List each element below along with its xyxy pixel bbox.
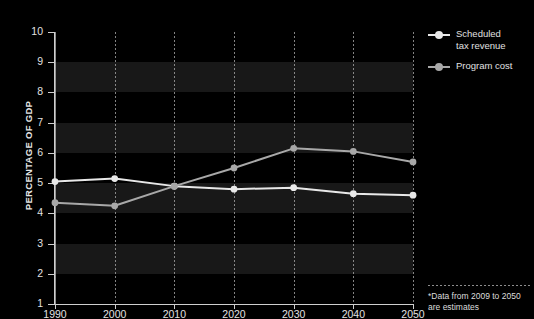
- y-tick-label: 10: [31, 25, 48, 38]
- y-tick: 8: [48, 92, 54, 93]
- legend-item-scheduled-tax-revenue[interactable]: Scheduled tax revenue: [428, 28, 532, 51]
- y-tick: 1: [48, 304, 54, 305]
- chart-footnote: *Data from 2009 to 2050 are estimates: [428, 285, 534, 312]
- footnote-text: *Data from 2009 to 2050 are estimates: [428, 291, 534, 312]
- y-tick: 10: [48, 32, 54, 33]
- vertical-gridline: [55, 32, 56, 304]
- chart-container: PERCENTAGE OF GDP 12345678910 1990200020…: [0, 0, 534, 319]
- plot-area: [55, 32, 413, 304]
- y-tick: 3: [48, 244, 54, 245]
- vertical-gridline: [353, 32, 354, 304]
- x-tick-label: 2020: [222, 308, 245, 319]
- y-tick-label: 2: [37, 267, 48, 280]
- y-tick-label: 6: [37, 146, 48, 159]
- x-tick-label: 1990: [43, 308, 66, 319]
- y-tick: 6: [48, 153, 54, 154]
- y-tick-label: 7: [37, 116, 48, 129]
- x-tick-label: 2000: [103, 308, 126, 319]
- y-tick-label: 9: [37, 55, 48, 68]
- y-tick-label: 5: [37, 176, 48, 189]
- footnote-divider: [428, 285, 532, 286]
- vertical-gridline: [174, 32, 175, 304]
- x-tick-label: 2030: [282, 308, 305, 319]
- legend-marker-icon: [428, 61, 450, 73]
- chart-legend: Scheduled tax revenue Program cost: [428, 28, 532, 82]
- y-tick-label: 8: [37, 85, 48, 98]
- y-tick: 7: [48, 123, 54, 124]
- x-tick-label: 2040: [342, 308, 365, 319]
- vertical-gridline: [413, 32, 414, 304]
- x-tick-label: 2010: [163, 308, 186, 319]
- y-tick-label: 3: [37, 237, 48, 250]
- y-tick: 4: [48, 213, 54, 214]
- legend-item-program-cost[interactable]: Program cost: [428, 60, 532, 73]
- y-tick: 9: [48, 62, 54, 63]
- legend-marker-icon: [428, 29, 450, 41]
- y-tick: 2: [48, 274, 54, 275]
- y-tick: 5: [48, 183, 54, 184]
- vertical-gridline: [234, 32, 235, 304]
- y-tick-label: 4: [37, 206, 48, 219]
- vertical-gridline: [294, 32, 295, 304]
- vertical-gridline: [115, 32, 116, 304]
- x-tick-label: 2050: [401, 308, 424, 319]
- y-axis-line: [54, 32, 55, 305]
- y-axis-title: PERCENTAGE OF GDP: [23, 76, 34, 236]
- legend-label: Program cost: [456, 60, 513, 72]
- legend-label: Scheduled tax revenue: [456, 28, 506, 51]
